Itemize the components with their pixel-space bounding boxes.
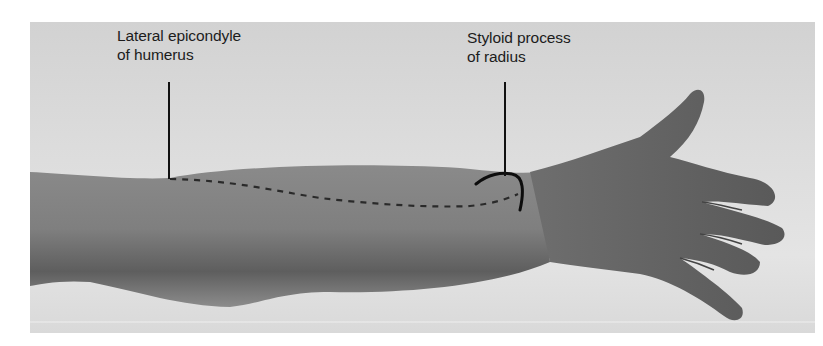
label-line: of humerus <box>117 45 241 64</box>
label-styloid-process: Styloid process of radius <box>467 28 571 66</box>
forearm-photo <box>30 22 815 333</box>
forearm-shape <box>30 165 550 307</box>
label-line: Styloid process <box>467 28 571 47</box>
leader-line-lateral-epicondyle <box>168 82 170 179</box>
label-lateral-epicondyle: Lateral epicondyle of humerus <box>117 26 241 64</box>
leader-line-styloid-process <box>504 82 506 176</box>
arm-illustration <box>30 22 815 333</box>
label-line: Lateral epicondyle <box>117 26 241 45</box>
hand-shape <box>530 90 785 320</box>
label-line: of radius <box>467 47 571 66</box>
